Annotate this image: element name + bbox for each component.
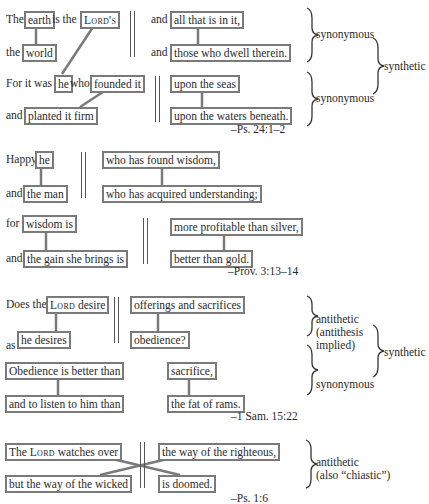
label-antithesis: (antithesis [316, 326, 363, 339]
text: The [9, 446, 30, 458]
text: is the [52, 12, 77, 26]
word-box: founded it [90, 75, 145, 93]
word-box: world [22, 44, 57, 62]
label-antithetic: antithetic [316, 313, 359, 326]
word-box: all that is in it, [170, 11, 244, 29]
word-box: Lord desire [46, 296, 109, 314]
lord-smallcaps: Lord [30, 446, 55, 458]
word-box: earth [24, 11, 55, 29]
word-box: the gain she brings is [23, 250, 128, 268]
label-implied: implied) [316, 339, 355, 352]
word-box: he [35, 151, 54, 169]
word-box: obedience? [130, 331, 190, 349]
scripture-reference: –1 Sam. 15:22 [231, 410, 298, 422]
word-box: wisdom is [22, 215, 77, 233]
word-box: the way of the righteous, [158, 443, 280, 461]
parallel-divider [114, 297, 119, 343]
word-box: planted it firm [24, 107, 98, 125]
text: The [6, 12, 24, 26]
label-antithetic: antithetic [316, 456, 359, 469]
text: Does the [6, 297, 47, 311]
parallel-divider [143, 218, 148, 264]
label-synthetic: synthetic [384, 346, 426, 359]
text: and [6, 251, 23, 265]
word-box: sacrifice, [167, 362, 217, 380]
label-synthetic: synthetic [384, 60, 426, 73]
scripture-reference: –Ps. 24:1–2 [231, 123, 285, 135]
word-box: Obedience is better than [5, 362, 124, 380]
text: and [151, 45, 168, 59]
lord-smallcaps: Lord [50, 299, 75, 311]
word-box: he desires [17, 331, 71, 349]
label-chiastic: (also “chiastic”) [316, 469, 390, 482]
text: who [70, 76, 90, 90]
parallel-divider [155, 76, 160, 122]
text: desire [75, 299, 105, 311]
word-box: who has found wisdom, [102, 151, 220, 169]
word-box: but the way of the wicked [5, 475, 132, 493]
word-box: more profitable than silver, [170, 218, 303, 236]
text: and [6, 108, 23, 122]
word-box: and to listen to him than [5, 395, 124, 413]
label-synonymous: synonymous [316, 378, 374, 391]
text: for [6, 216, 19, 230]
parallel-divider [81, 152, 86, 198]
text: and [151, 12, 168, 26]
parallel-divider [140, 442, 145, 488]
label-synonymous: synonymous [316, 28, 374, 41]
text: and [6, 186, 23, 200]
text: as [6, 338, 16, 352]
word-box: offerings and sacrifices [130, 296, 245, 314]
text: Happy [6, 152, 37, 166]
text: For it was [6, 76, 52, 90]
word-box: the man [23, 185, 68, 203]
word-box: upon the seas [170, 75, 240, 93]
brace-group [306, 8, 384, 488]
word-box: The Lord watches over [5, 443, 122, 461]
scripture-reference: –Ps. 1:6 [231, 492, 268, 504]
parallel-divider [130, 11, 135, 57]
label-synonymous: synonymous [316, 92, 374, 105]
word-box: is doomed. [158, 475, 216, 493]
text: watches over [55, 446, 118, 458]
scripture-reference: –Prov. 3:13–14 [228, 265, 298, 277]
word-box-lord: Lord's [80, 11, 120, 29]
word-box: who has acquired understanding; [102, 185, 262, 203]
text: the [6, 45, 20, 59]
word-box: those who dwell therein. [170, 44, 291, 62]
